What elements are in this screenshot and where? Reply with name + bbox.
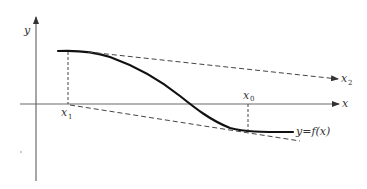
tangent-line-from-x1	[70, 105, 300, 141]
function-curve	[58, 51, 293, 132]
svg-text:x: x	[61, 106, 68, 119]
y-axis-label: y	[23, 24, 31, 37]
svg-text:x: x	[243, 89, 250, 102]
tangent-line-to-x2	[88, 52, 338, 79]
newton-method-diagram: y x x 1 x 0 x 2 y=f(x)	[0, 0, 367, 189]
x2-label: x 2	[341, 72, 352, 87]
x1-label: x 1	[61, 106, 72, 121]
svg-text:x: x	[341, 72, 348, 85]
x0-label: x 0	[243, 89, 254, 103]
stray-mark	[20, 151, 22, 153]
svg-text:2: 2	[348, 79, 352, 87]
svg-text:1: 1	[68, 113, 72, 121]
curve-label: y=f(x)	[295, 125, 330, 138]
x-axis-label: x	[342, 97, 349, 110]
svg-text:0: 0	[250, 95, 254, 103]
